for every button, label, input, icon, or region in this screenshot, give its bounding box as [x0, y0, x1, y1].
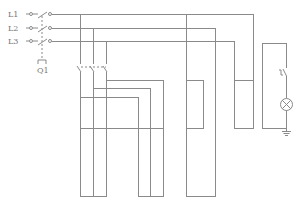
ground-icon — [282, 132, 291, 136]
phase-drops — [81, 14, 107, 62]
breaker-label: Q1 — [37, 66, 49, 75]
phase-label-l2: L2 — [8, 24, 18, 33]
phase-label-l1: L1 — [8, 10, 18, 19]
indicator-lamp-icon — [281, 99, 293, 132]
load-wiring-left — [80, 72, 164, 197]
schematic-canvas: L1 L2 L3 Q1 — [0, 0, 298, 208]
lamp-circuit — [262, 44, 287, 129]
contactor-contacts-icon — [77, 60, 107, 72]
phase-label-l3: L3 — [8, 37, 18, 46]
breaker-q1-icon — [26, 12, 52, 64]
bus-lines — [52, 15, 254, 42]
control-switch-icon — [279, 66, 287, 98]
